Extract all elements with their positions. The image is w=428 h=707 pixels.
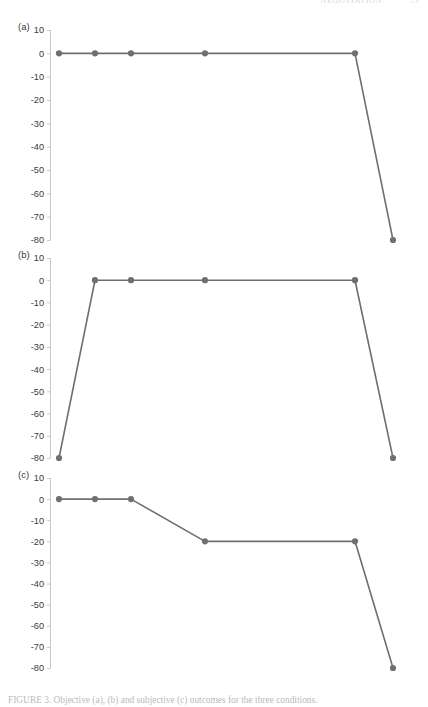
figure-caption-text: Objective (a), (b) and subjective (c) ou… bbox=[54, 695, 318, 705]
svg-text:-50: -50 bbox=[31, 387, 44, 397]
figure-caption: FIGURE 3. Objective (a), (b) and subject… bbox=[8, 693, 420, 707]
svg-text:-20: -20 bbox=[31, 320, 44, 330]
svg-text:-10: -10 bbox=[31, 516, 44, 526]
svg-text:-70: -70 bbox=[31, 212, 44, 222]
figure-caption-label: FIGURE 3. bbox=[8, 695, 51, 705]
svg-text:-30: -30 bbox=[31, 558, 44, 568]
svg-text:-60: -60 bbox=[31, 409, 44, 419]
svg-text:-80: -80 bbox=[31, 235, 44, 245]
svg-text:0: 0 bbox=[39, 495, 44, 505]
svg-text:-80: -80 bbox=[31, 663, 44, 673]
svg-text:-60: -60 bbox=[31, 189, 44, 199]
svg-text:-10: -10 bbox=[31, 298, 44, 308]
panel-b-plot: 100-10-20-30-40-50-60-70-80 bbox=[0, 250, 428, 478]
svg-text:10: 10 bbox=[34, 25, 44, 35]
svg-text:-20: -20 bbox=[31, 537, 44, 547]
svg-text:-10: -10 bbox=[31, 72, 44, 82]
chart-panel-b: (b) 100-10-20-30-40-50-60-70-80 bbox=[0, 250, 428, 478]
svg-text:-80: -80 bbox=[31, 453, 44, 463]
svg-text:-40: -40 bbox=[31, 142, 44, 152]
svg-text:-50: -50 bbox=[31, 165, 44, 175]
panel-a-plot: 100-10-20-30-40-50-60-70-80 bbox=[0, 22, 428, 250]
svg-text:-70: -70 bbox=[31, 431, 44, 441]
panel-c-plot: 100-10-20-30-40-50-60-70-80 bbox=[0, 470, 428, 686]
svg-text:10: 10 bbox=[34, 253, 44, 263]
svg-text:-30: -30 bbox=[31, 119, 44, 129]
svg-text:-50: -50 bbox=[31, 600, 44, 610]
svg-text:0: 0 bbox=[39, 49, 44, 59]
svg-text:-30: -30 bbox=[31, 342, 44, 352]
chart-panel-a: (a) 100-10-20-30-40-50-60-70-80 bbox=[0, 22, 428, 250]
svg-text:-20: -20 bbox=[31, 95, 44, 105]
svg-text:-40: -40 bbox=[31, 365, 44, 375]
svg-text:10: 10 bbox=[34, 473, 44, 483]
svg-text:-60: -60 bbox=[31, 621, 44, 631]
chart-panel-c: (c) 100-10-20-30-40-50-60-70-80 bbox=[0, 470, 428, 686]
svg-text:-70: -70 bbox=[31, 642, 44, 652]
svg-text:-40: -40 bbox=[31, 579, 44, 589]
svg-text:0: 0 bbox=[39, 276, 44, 286]
